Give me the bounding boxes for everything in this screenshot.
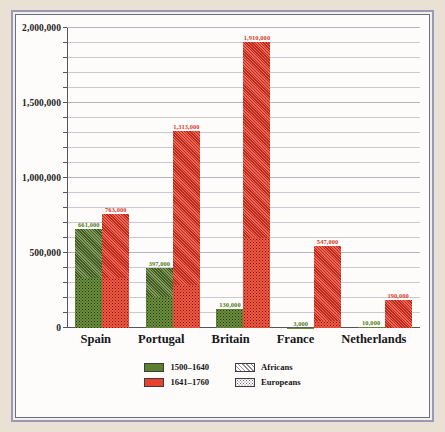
legend-pattern-item[interactable]: Africans: [235, 362, 300, 372]
category-label: Netherlands: [341, 332, 406, 347]
bar[interactable]: 1,313,000: [173, 131, 200, 328]
bar-segment-africans: [243, 42, 270, 239]
bar-group: 3,000547,000: [287, 28, 341, 328]
bar-value-label: 10,000: [362, 319, 380, 326]
bar-groups: 661,000763,000397,0001,313,000130,0001,9…: [67, 28, 420, 328]
y-axis-tick-label: 1,000,000: [22, 173, 61, 183]
legend-swatch-red: [144, 378, 164, 387]
legend-swatch-dots: [235, 378, 255, 387]
bar-group: 10,000190,000: [358, 28, 412, 328]
category-label: Britain: [212, 332, 250, 347]
bar-group: 130,0001,910,000: [216, 28, 270, 328]
bar-segment-europeans: [358, 327, 385, 329]
bar-value-label: 547,000: [317, 238, 338, 245]
bar-segment-africans: [102, 214, 129, 278]
plot-wrapper: 2,000,0001,500,0001,000,000500,0000 661,…: [15, 14, 430, 418]
y-axis-tick-label: 500,000: [29, 248, 61, 258]
bar[interactable]: 130,000: [216, 309, 243, 329]
legend-label: Africans: [261, 362, 293, 372]
legend-series-item[interactable]: 1500–1640: [144, 362, 209, 372]
legend-label: 1641–1760: [170, 377, 209, 387]
bar-value-label: 130,000: [219, 301, 240, 308]
bar-segment-europeans: [173, 285, 200, 328]
bar-segment-europeans: [216, 309, 243, 329]
bar-segment-africans: [146, 268, 173, 296]
bar-segment-europeans: [75, 278, 102, 328]
legend-label: 1500–1640: [170, 362, 209, 372]
y-axis-tick-label: 0: [56, 323, 61, 333]
bar-segment-africans: [75, 229, 102, 278]
bar-segment-africans: [385, 300, 412, 329]
bar[interactable]: 1,910,000: [243, 42, 270, 329]
bar[interactable]: 190,000: [385, 300, 412, 329]
bar-segment-europeans: [146, 297, 173, 328]
bar-segment-africans: [173, 131, 200, 284]
legend-pattern-item[interactable]: Europeans: [235, 377, 300, 387]
bar[interactable]: 661,000: [75, 229, 102, 328]
legend-series-item[interactable]: 1641–1760: [144, 377, 209, 387]
bar-value-label: 397,000: [149, 260, 170, 267]
chart-figure: 2,000,0001,500,0001,000,000500,0000 661,…: [0, 0, 445, 432]
bar-value-label: 190,000: [387, 292, 408, 299]
category-labels: SpainPortugalBritainFranceNetherlands: [67, 332, 420, 347]
bar-group: 397,0001,313,000: [146, 28, 200, 328]
legend-pattern-column: AfricansEuropeans: [235, 362, 300, 387]
bar-value-label: 1,313,000: [173, 123, 199, 130]
bar-segment-africans: [314, 246, 341, 321]
bar-value-label: 763,000: [105, 206, 126, 213]
legend-label: Europeans: [261, 377, 300, 387]
legend-swatch-hatch: [235, 363, 255, 372]
bar-value-label: 3,000: [293, 320, 308, 327]
bar[interactable]: 397,000: [146, 268, 173, 328]
bar[interactable]: 10,000: [358, 327, 385, 329]
bar-group: 661,000763,000: [75, 28, 129, 328]
category-label: France: [277, 332, 314, 347]
category-label: Spain: [80, 332, 111, 347]
bar[interactable]: 547,000: [314, 246, 341, 328]
bar-value-label: 1,910,000: [244, 34, 270, 41]
category-label: Portugal: [138, 332, 185, 347]
bar-segment-europeans: [243, 238, 270, 328]
y-axis-tick-label: 1,500,000: [22, 98, 61, 108]
legend-swatch-green: [144, 363, 164, 372]
y-axis-tick-label: 2,000,000: [22, 23, 61, 33]
legend-series-column: 1500–16401641–1760: [144, 362, 209, 387]
chart-legend: 1500–16401641–1760 AfricansEuropeans: [15, 362, 430, 387]
bar-value-label: 661,000: [78, 221, 99, 228]
bar[interactable]: 763,000: [102, 214, 129, 328]
bar-segment-europeans: [102, 278, 129, 328]
bar-segment-europeans: [314, 321, 341, 328]
plot-area: 2,000,0001,500,0001,000,000500,0000 661,…: [67, 28, 420, 328]
